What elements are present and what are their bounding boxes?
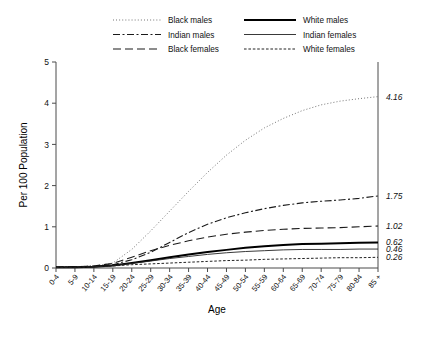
x-tick-label: 65-69	[288, 273, 307, 294]
x-tick-label: 20-24	[117, 273, 136, 294]
x-tick-label: 0-4	[47, 273, 61, 287]
y-tick-label: 1	[44, 222, 49, 232]
x-tick-label: 10-14	[80, 273, 99, 294]
x-tick-label: 70-74	[307, 273, 326, 294]
legend-label-black-males: Black males	[168, 16, 212, 25]
x-tick-label: 25-29	[136, 273, 155, 294]
chart-axes	[56, 62, 378, 268]
legend-label-black-females: Black females	[168, 45, 219, 54]
y-axis-title: Per 100 Population	[18, 122, 29, 207]
end-value-label-black-males: 4.16	[386, 92, 403, 102]
x-tick-label: 55-59	[250, 273, 269, 294]
y-tick-label: 2	[44, 181, 49, 191]
x-tick-label: 15-19	[98, 273, 117, 294]
series-line-black-males	[56, 97, 378, 268]
x-tick-label: 50-54	[231, 273, 250, 294]
y-tick-label: 0	[44, 263, 49, 273]
x-tick-label: 35-39	[174, 273, 193, 294]
line-chart: 0123450-45-910-1415-1920-2425-2930-3435-…	[0, 0, 443, 337]
legend-label-white-females: White females	[303, 45, 355, 54]
x-tick-label: 60-64	[269, 273, 288, 294]
legend-label-indian-females: Indian females	[303, 31, 356, 40]
end-value-label-black-females: 1.02	[386, 221, 403, 231]
y-tick-label: 4	[44, 98, 49, 108]
x-tick-label: 40-44	[193, 273, 212, 294]
series-line-indian-males	[56, 196, 378, 267]
x-tick-label: 80-84	[345, 273, 364, 294]
x-tick-label: 75-79	[326, 273, 345, 294]
y-tick-label: 3	[44, 140, 49, 150]
series-line-white-males	[56, 242, 378, 267]
series-line-black-females	[56, 226, 378, 267]
end-value-label-white-females: 0.26	[386, 252, 403, 262]
x-tick-label: 30-34	[155, 273, 174, 294]
x-tick-label: 45-49	[212, 273, 231, 294]
end-value-label-indian-males: 1.75	[386, 191, 403, 201]
y-tick-label: 5	[44, 57, 49, 67]
legend-label-indian-males: Indian males	[168, 31, 214, 40]
chart-container: 0123450-45-910-1415-1920-2425-2930-3435-…	[0, 0, 443, 337]
legend-label-white-males: White males	[303, 16, 348, 25]
x-tick-label: 85 +	[366, 272, 383, 290]
x-axis-title: Age	[208, 304, 226, 315]
x-tick-label: 5-9	[66, 273, 80, 287]
